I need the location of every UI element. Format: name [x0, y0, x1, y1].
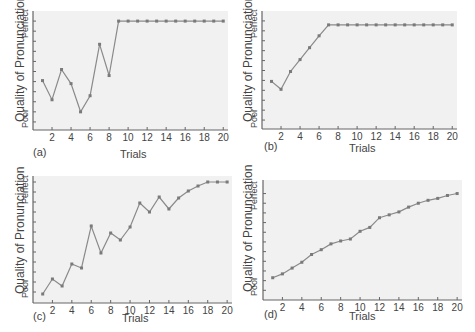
x-tick-label: 6	[316, 131, 322, 142]
x-tick-label: 12	[371, 131, 383, 142]
data-point	[327, 23, 330, 26]
panel-tag: (c)	[33, 310, 46, 322]
data-point	[193, 20, 196, 23]
data-point	[138, 202, 141, 205]
data-point	[446, 194, 449, 197]
x-tick-label: 14	[390, 131, 402, 142]
data-point	[403, 23, 406, 26]
y-axis-top-label: Perfect	[249, 181, 259, 210]
data-point	[291, 267, 294, 270]
data-point	[80, 267, 83, 270]
data-point	[212, 20, 215, 23]
y-axis-top-label: Perfect	[20, 175, 30, 204]
data-point	[51, 98, 54, 101]
x-tick-label: 10	[352, 131, 364, 142]
data-point	[407, 206, 410, 209]
y-axis-bottom-label: Poor	[20, 279, 30, 298]
data-point	[119, 239, 122, 242]
x-tick-label: 10	[123, 132, 135, 143]
data-point	[197, 185, 200, 188]
panel-tag: (b)	[264, 140, 277, 152]
x-tick-label: 20	[447, 131, 459, 142]
data-point	[203, 20, 206, 23]
data-point	[375, 23, 378, 26]
data-point	[108, 74, 111, 77]
data-point	[158, 196, 161, 199]
data-point	[432, 23, 435, 26]
x-tick-label: 18	[432, 302, 444, 313]
y-axis-top-label: Perfect	[249, 9, 259, 38]
data-point	[155, 20, 158, 23]
panel-tag: (d)	[264, 308, 277, 320]
x-tick-label: 18	[428, 131, 440, 142]
chart-a-plot: 2468101214161820	[0, 0, 237, 166]
data-point	[117, 20, 120, 23]
data-point	[165, 20, 168, 23]
data-point	[216, 181, 219, 184]
panel-a: 2468101214161820 Quality of Pronunciatio…	[0, 0, 237, 166]
data-point	[61, 285, 64, 288]
data-point	[70, 263, 73, 266]
data-point	[356, 23, 359, 26]
x-axis-label: Trials	[120, 148, 146, 160]
x-tick-label: 16	[409, 131, 421, 142]
x-tick-label: 6	[318, 302, 324, 313]
data-point	[270, 80, 273, 83]
data-point	[346, 23, 349, 26]
data-point	[339, 239, 342, 242]
data-point	[320, 248, 323, 251]
x-tick-label: 2	[50, 305, 56, 316]
data-point	[177, 197, 180, 200]
data-point	[60, 68, 63, 71]
data-point	[206, 181, 209, 184]
x-tick-label: 4	[297, 131, 303, 142]
data-point	[427, 199, 430, 202]
data-point	[109, 232, 112, 235]
data-point	[99, 252, 102, 255]
y-axis-bottom-label: Poor	[249, 109, 259, 128]
x-tick-label: 20	[452, 302, 464, 313]
x-tick-label: 8	[335, 131, 341, 142]
data-point	[299, 58, 302, 61]
data-point	[136, 20, 139, 23]
data-point	[368, 226, 371, 229]
data-point	[226, 181, 229, 184]
x-axis-label: Trials	[122, 312, 148, 324]
data-point	[70, 82, 73, 85]
panel-d: 2468101214161820 Quality of Pronunciatio…	[237, 166, 474, 332]
data-point	[337, 23, 340, 26]
data-point	[422, 23, 425, 26]
data-point	[456, 192, 459, 195]
x-tick-label: 14	[393, 302, 405, 313]
data-point	[51, 278, 54, 281]
data-point	[146, 20, 149, 23]
x-tick-label: 2	[278, 131, 284, 142]
data-point	[187, 190, 190, 193]
data-point	[289, 70, 292, 73]
x-tick-label: 8	[338, 302, 344, 313]
data-point	[300, 261, 303, 264]
x-tick-label: 18	[199, 132, 211, 143]
data-point	[184, 20, 187, 23]
data-point	[280, 88, 283, 91]
x-tick-label: 16	[183, 305, 195, 316]
x-tick-label: 6	[87, 132, 93, 143]
x-tick-label: 18	[202, 305, 214, 316]
plot-background	[263, 180, 462, 300]
x-tick-label: 16	[180, 132, 192, 143]
x-tick-label: 16	[413, 302, 425, 313]
x-tick-label: 12	[374, 302, 386, 313]
data-point	[222, 20, 225, 23]
data-point	[90, 225, 93, 228]
data-point	[308, 46, 311, 49]
x-tick-label: 4	[299, 302, 305, 313]
panel-tag: (a)	[33, 146, 46, 158]
x-tick-label: 20	[222, 305, 234, 316]
y-axis-top-label: Perfect	[20, 9, 30, 38]
data-point	[271, 276, 274, 279]
data-point	[388, 213, 391, 216]
data-point	[127, 20, 130, 23]
data-point	[394, 23, 397, 26]
x-tick-label: 2	[49, 132, 55, 143]
data-point	[384, 23, 387, 26]
